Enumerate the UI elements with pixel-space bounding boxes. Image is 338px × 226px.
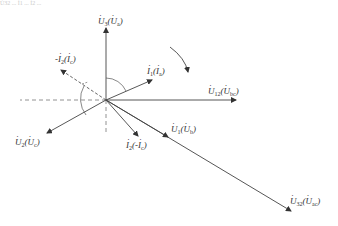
phasor-diagram: U̇32 ... İ1 ... İ2 ... bbox=[0, 0, 338, 226]
vector-U2 bbox=[47, 100, 106, 133]
label-I2: I2(-Ic) bbox=[126, 140, 147, 153]
angle-arc-negI2-U2 bbox=[81, 86, 86, 115]
label-I1: I1(Ia) bbox=[147, 66, 165, 79]
label-U3: U3(Ua) bbox=[98, 16, 123, 29]
label-U1: U1(Ub) bbox=[171, 124, 196, 137]
angle-tick bbox=[82, 82, 88, 84]
vector-I2 bbox=[106, 100, 138, 136]
label-neg-I2: -I2(Ic) bbox=[55, 54, 76, 67]
vector-U1 bbox=[106, 100, 168, 137]
label-U2: U2(Uc) bbox=[15, 137, 40, 150]
label-U12: U12(Ubc) bbox=[208, 86, 239, 99]
vector-neg-I2 bbox=[61, 70, 106, 100]
label-U32: U32(Uac) bbox=[290, 196, 320, 209]
angle-arc-U3-I1 bbox=[106, 78, 126, 91]
vector-I1 bbox=[106, 80, 152, 100]
rotation-arrow-icon bbox=[170, 47, 188, 72]
phasor-lines bbox=[0, 0, 338, 226]
